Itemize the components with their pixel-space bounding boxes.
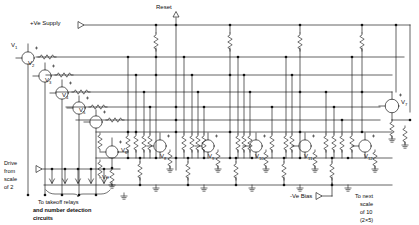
supply-label: +Ve Supply	[30, 20, 61, 27]
wire-layer	[16, 18, 410, 199]
valve-v6-envelope	[106, 146, 118, 158]
drive-label-line4: of 2	[4, 184, 13, 191]
reset-terminal-triangle	[173, 12, 179, 18]
takeoff-brace	[46, 190, 110, 197]
valve-label-v11: V11	[304, 153, 312, 159]
valve-label-v7: V7	[401, 99, 407, 105]
neg-bias-label: -Ve Bias	[290, 193, 312, 200]
neg-ve-label: -Ve	[100, 174, 109, 181]
valve-sub-v10: 10	[259, 156, 264, 161]
next-scale-line1: To next	[355, 193, 373, 200]
takeoff-label-line3: circuits	[33, 215, 53, 222]
drive-label-line3: scale	[4, 176, 17, 183]
takeoff-label-line1: To takeoff relays	[38, 199, 79, 206]
circuit-diagram: +Ve Supply Reset V1 V2 V3 V4 V5 V6 V7 V8…	[0, 0, 419, 225]
valve-v11-envelope	[299, 140, 311, 152]
next-scale-line3: of 10	[360, 209, 372, 216]
valve-label-v3: V3	[45, 77, 51, 83]
drive-terminal-arrow	[36, 166, 42, 173]
drive-label-line2: from	[4, 168, 15, 175]
valve-label-v4: V4	[62, 92, 68, 98]
valve-sub-v11: 11	[308, 156, 312, 161]
next-scale-line4: (2×5)	[360, 217, 373, 224]
valve-label-v12: V12	[364, 153, 373, 159]
valve-v7-envelope	[385, 99, 399, 113]
polarity-marks	[35, 47, 402, 144]
reset-label: Reset	[156, 4, 172, 11]
valve-label-v9: V9	[208, 153, 214, 159]
valve-sub-v12: 12	[368, 156, 373, 161]
valve-label-v1: V1	[11, 42, 17, 48]
valve-label-v2: V2	[28, 60, 34, 66]
valve-v8-envelope	[154, 140, 166, 152]
schematic-svg	[0, 0, 419, 225]
bias-terminal-arrow	[316, 193, 322, 200]
valve-label-v8: V8	[160, 153, 166, 159]
valve-v12-envelope	[359, 140, 371, 152]
valve-label-v5: V5	[79, 107, 85, 113]
takeoff-label-line2: and number detection	[33, 207, 91, 214]
valve-label-v10: V10	[255, 153, 264, 159]
supply-terminal-arrow	[78, 22, 84, 29]
drive-arrows	[50, 169, 107, 184]
valve-v5-envelope	[90, 116, 102, 128]
valve-label-v6: V6	[121, 147, 127, 153]
next-scale-line2: scale	[360, 201, 373, 208]
drive-label-line1: Drive	[4, 160, 17, 167]
